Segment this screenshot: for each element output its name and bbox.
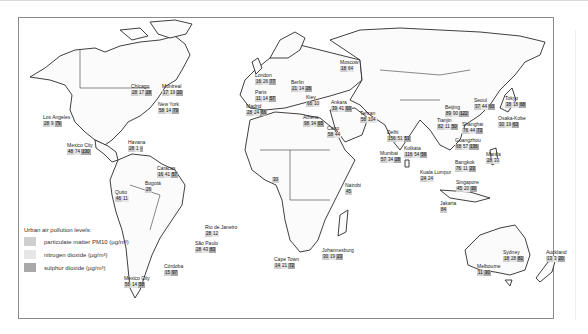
city-cairo: Cairo 5844 <box>327 126 341 138</box>
legend-item-so2: sulphur dioxide (µg/m³) <box>24 263 129 272</box>
city-lagos: 30 <box>272 177 279 183</box>
city-tianjin: Tianjin 821150 <box>437 118 458 130</box>
city-seoul: Seoul 374460 <box>474 98 495 110</box>
city-shanghai: Shanghai 764473 <box>462 122 483 134</box>
city-osaka-kobe: Osaka-Kobe 301963 <box>498 116 526 128</box>
edge-rule <box>575 30 576 320</box>
city-delhi: Delhi 1565153 <box>387 130 411 142</box>
city-ankara: Ankara 394193 <box>331 100 352 112</box>
city-mexico-city: Mexico City 4874130 <box>67 143 93 155</box>
madagascar <box>338 210 348 236</box>
city-nairobi: Nairobi 45 <box>345 183 361 195</box>
tasmania <box>505 280 512 286</box>
city-singapore: Singapore 452030 <box>456 180 479 192</box>
city-tokyo: Tokyo 381868 <box>505 96 526 108</box>
greenland <box>150 20 192 38</box>
sri-lanka <box>405 160 409 167</box>
city-kuala-lumpur: Kuala Lumpur 2424 <box>420 170 451 182</box>
city-montreal: Montreal 171920 <box>162 84 183 96</box>
city-caracas: Caracas 164157 <box>157 166 178 178</box>
city-santiago: Mexico City 561458 <box>124 276 150 288</box>
city-cordoba: Córdoba 1597 <box>164 264 183 276</box>
city-cape-town: Cape Town 142172 <box>274 257 299 269</box>
map-legend: Urban air pollution levels: particulate … <box>24 227 129 276</box>
city-moscow: Moscow 1864 <box>340 60 358 72</box>
arctic-islands <box>120 28 148 40</box>
city-london: London 162677 <box>255 73 276 85</box>
city-sao-paulo: São Paulo 284383 <box>195 241 218 253</box>
city-auckland: Auckland 13320 <box>546 250 567 262</box>
legend-swatch-pm10 <box>24 237 36 246</box>
city-melbourne: Melbourne 1130 <box>477 264 501 276</box>
city-bogota: Bogotá 26 <box>145 181 161 193</box>
city-bangkok: Bangkok 761123 <box>455 160 476 172</box>
city-rio-de-janeiro: Rio de Janeiro 2812 <box>205 225 237 237</box>
legend-swatch-so2 <box>24 263 36 272</box>
city-sydney: Sydney 182881 <box>503 250 524 262</box>
city-guangzhou: Guangzhou 6857136 <box>455 138 481 150</box>
legend-title: Urban air pollution levels: <box>24 227 129 233</box>
city-los-angeles: Los Angeles 28979 <box>43 115 70 127</box>
city-johannesburg: Johannesburg 301923 <box>322 248 354 260</box>
city-chicago: Chicago 281728 <box>131 84 152 96</box>
city-jakarta: Jakarta 84 <box>440 201 456 213</box>
city-mumbai: Mumbai 573428 <box>380 151 401 163</box>
city-havana: Havana 281- <box>128 140 145 152</box>
city-beijing: Beijing 8990122 <box>445 105 469 117</box>
city-quito: Quito 4611 <box>115 190 129 202</box>
city-new-york: New York 581479 <box>158 102 179 114</box>
city-kolkata: Kolkata 1165456 <box>404 146 427 158</box>
city-berlin: Berlin 211426 <box>291 80 312 92</box>
city-athens: Athens 983465 <box>303 115 324 127</box>
city-tehran: Tehran 58104 <box>360 111 377 123</box>
city-kiev: Kiev 6610 <box>306 95 320 107</box>
city-paris: Paris 111457 <box>255 90 276 102</box>
legend-item-pm10: particulate matter PM10 (µg/m³) <box>24 237 129 246</box>
legend-swatch-no2 <box>24 250 36 259</box>
city-manila: Manila 2833 <box>486 152 501 164</box>
legend-item-no2: nitrogen dioxide (µg/m³) <box>24 250 129 259</box>
city-madrid: Madrid 282466 <box>246 104 267 116</box>
world-map <box>0 0 588 334</box>
